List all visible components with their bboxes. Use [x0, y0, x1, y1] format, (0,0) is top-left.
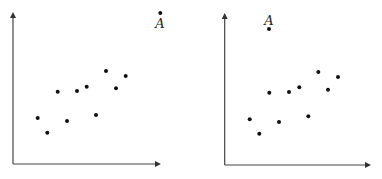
data-point [287, 90, 291, 94]
data-point [297, 85, 301, 89]
data-point [267, 91, 271, 95]
data-point [104, 69, 108, 73]
x-arrow-icon [365, 162, 371, 168]
scatter-figure: AA [0, 0, 382, 179]
outlier-point [158, 11, 162, 15]
data-point [94, 113, 98, 117]
y-arrow-icon [222, 13, 228, 19]
y-arrow-icon [10, 12, 16, 18]
data-point [45, 131, 49, 135]
data-point [336, 75, 340, 79]
data-point [248, 117, 252, 121]
x-arrow-icon [155, 161, 161, 167]
data-point [277, 120, 281, 124]
data-point [36, 116, 40, 120]
data-point [85, 85, 89, 89]
data-point [316, 70, 320, 74]
outlier-label: A [154, 16, 164, 31]
data-point [306, 114, 310, 118]
outlier-label: A [263, 13, 273, 28]
data-point [124, 74, 128, 78]
data-point [257, 132, 261, 136]
data-point [75, 89, 79, 93]
data-point [326, 88, 330, 92]
data-point [65, 119, 69, 123]
data-point [114, 86, 118, 90]
data-point [56, 90, 60, 94]
